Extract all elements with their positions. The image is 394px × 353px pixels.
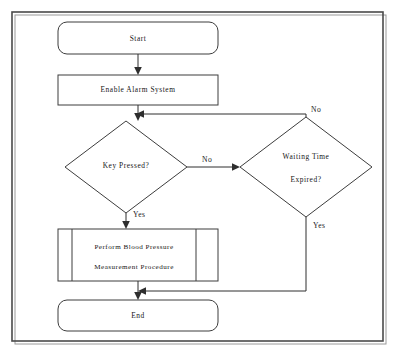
waiting-time-expired-label-line1: Waiting Time bbox=[283, 152, 330, 161]
edge-waiting-no-loop-back: No bbox=[136, 105, 321, 118]
edge-label-waiting-yes: Yes bbox=[313, 221, 326, 230]
edge-waiting-no-line bbox=[141, 114, 306, 117]
waiting-time-expired-shape bbox=[240, 117, 372, 217]
edge-start-to-enable-arrow bbox=[134, 67, 142, 75]
measurement-procedure-shape bbox=[58, 229, 218, 281]
measurement-procedure-label-line2: Measurement Procedure bbox=[94, 263, 174, 271]
node-end[interactable]: End bbox=[58, 300, 218, 331]
node-enable-alarm[interactable]: Enable Alarm System bbox=[58, 75, 218, 105]
edge-start-to-enable bbox=[134, 54, 142, 75]
node-measurement-procedure[interactable]: Perform Blood Pressure Measurement Proce… bbox=[58, 229, 218, 281]
enable-alarm-label: Enable Alarm System bbox=[101, 85, 176, 94]
flowchart-canvas: Start Enable Alarm System Key Pressed? W… bbox=[0, 0, 394, 353]
end-label: End bbox=[131, 311, 145, 320]
edge-key-yes-arrow bbox=[122, 221, 130, 229]
measurement-procedure-label-line1: Perform Blood Pressure bbox=[94, 243, 173, 251]
node-waiting-time-expired[interactable]: Waiting Time Expired? bbox=[240, 117, 372, 217]
start-label: Start bbox=[130, 34, 147, 43]
key-pressed-label: Key Pressed? bbox=[103, 161, 150, 170]
edge-label-key-yes: Yes bbox=[133, 210, 146, 219]
edge-label-waiting-no: No bbox=[311, 105, 321, 114]
flowchart-svg: Start Enable Alarm System Key Pressed? W… bbox=[0, 0, 394, 353]
waiting-time-expired-label-line2: Expired? bbox=[290, 175, 321, 184]
edge-key-no-arrow bbox=[232, 163, 240, 171]
edge-key-no-to-waiting: No bbox=[187, 155, 240, 171]
node-start[interactable]: Start bbox=[58, 22, 218, 54]
node-key-pressed[interactable]: Key Pressed? bbox=[65, 121, 187, 213]
edge-label-key-no: No bbox=[202, 155, 212, 164]
edge-measure-to-end-arrow bbox=[134, 292, 142, 300]
